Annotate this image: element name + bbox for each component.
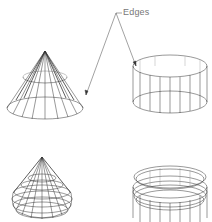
cone-edges-figure [7,51,83,119]
diagram-canvas [0,0,212,222]
edges-label: Edges [123,7,150,17]
cylinder-smoothed-figure [133,166,207,222]
edges-callout-leader [85,13,136,95]
cylinder-edges-figure [133,55,207,113]
cone-smoothed-figure [12,157,72,219]
